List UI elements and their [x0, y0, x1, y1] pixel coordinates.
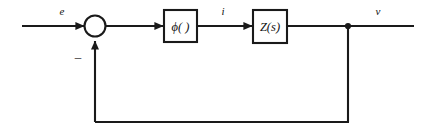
block-diagram-svg: ϕ( ) Z(s) e i v –: [0, 0, 432, 135]
negative-feedback-sign: –: [74, 49, 82, 64]
block-diagram-canvas: ϕ( ) Z(s) e i v –: [0, 0, 432, 135]
summing-junction: [85, 16, 106, 37]
phi-block-label: ϕ( ): [172, 20, 190, 34]
input-signal-label: e: [60, 5, 65, 17]
output-signal-label: v: [376, 5, 381, 17]
intermediate-signal-label: i: [221, 5, 224, 17]
z-block-label: Z(s): [260, 20, 280, 34]
